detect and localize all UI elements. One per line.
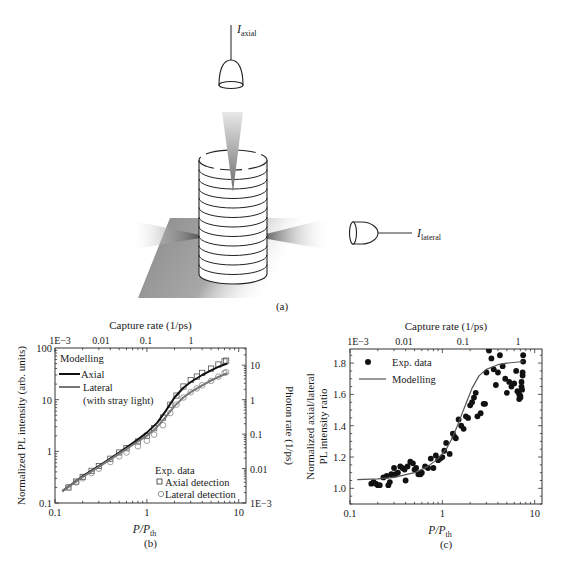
y-tick-label: 1.4: [333, 421, 347, 432]
x-tick-label: 0.1: [343, 508, 356, 519]
y2-axis-label: Photon rate (1/ps): [283, 386, 296, 465]
lateral-detector-label: Ilateral: [416, 226, 442, 242]
y-axis-label-line2: PL intensity ratio: [317, 388, 329, 464]
x-axis-label: P/Pth: [427, 524, 451, 539]
x-axis-label: P/Pth: [132, 523, 156, 538]
x-axis: 0.11101E−30.010.11Capture rate (1/ps): [343, 320, 540, 519]
chart-panel-b: 0.11101E−30.010.11Capture rate (1/ps)P/P…: [15, 319, 296, 550]
svg-text:Modelling: Modelling: [60, 353, 104, 364]
svg-text:(with stray light): (with stray light): [83, 395, 154, 407]
y2-axis: 1E−30.010.1110Photon rate (1/ps): [242, 349, 296, 509]
x-tick-label: 1: [440, 508, 445, 519]
series-exp-data: [368, 348, 526, 488]
plot-area: [357, 348, 526, 488]
top-tick-label: 0.1: [457, 336, 470, 347]
svg-text:Exp. data: Exp. data: [392, 357, 432, 368]
legend-exp-data: Exp. dataAxial detectionLateral detectio…: [155, 465, 237, 500]
y-tick-label: 1.0: [333, 483, 346, 494]
x-tick-label: 10: [233, 507, 244, 518]
top-tick-label: 1E−3: [347, 336, 369, 347]
panel-label-a: (a): [276, 300, 289, 313]
y-axis-label: Normalized axial/lateral: [304, 373, 316, 480]
axial-detector-label: Iaxial: [236, 22, 257, 38]
top-tick-label: 1: [189, 335, 194, 346]
top-tick-label: 0.1: [140, 335, 153, 346]
y2-tick-label: 0.01: [250, 464, 268, 475]
y-tick-label: 1.6: [333, 389, 346, 400]
top-axis-title: Capture rate (1/ps): [405, 320, 488, 333]
legend: Exp. dataModelling: [359, 357, 436, 385]
svg-text:Modelling: Modelling: [392, 374, 436, 385]
y-tick-label: 100: [36, 343, 52, 354]
figure: Iaxial Ilateral (a) 0.11101E−30.010.11Ca…: [0, 0, 565, 566]
svg-text:Lateral: Lateral: [83, 382, 113, 393]
y2-tick-label: 10: [250, 360, 260, 371]
top-tick-label: 1: [516, 336, 521, 347]
y2-tick-label: 0.1: [250, 429, 263, 440]
y-tick-label: 10: [42, 395, 53, 406]
chart-panel-c: 0.11101E−30.010.11Capture rate (1/ps)P/P…: [304, 320, 542, 551]
legend-modelling: ModellingAxialLateral(with stray light): [59, 353, 154, 407]
svg-text:Lateral detection: Lateral detection: [165, 489, 237, 500]
top-axis-title: Capture rate (1/ps): [109, 319, 192, 332]
svg-text:Axial: Axial: [81, 369, 104, 380]
panel-label: (c): [440, 538, 453, 551]
lateral-detector-icon: [350, 222, 413, 244]
schematic-panel-a: Iaxial Ilateral (a): [130, 22, 442, 313]
plot-frame: [350, 349, 542, 504]
y2-tick-label: 1E−3: [250, 498, 272, 509]
y-tick-label: 1.8: [333, 358, 346, 369]
y-tick-label: 1: [47, 446, 52, 457]
top-tick-label: 0.01: [395, 336, 413, 347]
svg-text:Axial detection: Axial detection: [165, 477, 230, 488]
panel-label: (b): [144, 537, 157, 550]
top-tick-label: 0.01: [92, 335, 110, 346]
y-axis-label: Normalized PL intensity (arb. units): [15, 346, 28, 505]
x-tick-label: 10: [529, 508, 540, 519]
x-tick-label: 1: [144, 507, 149, 518]
y-axis: 0.1110100Normalized PL intensity (arb. u…: [15, 343, 59, 509]
svg-text:Exp. data: Exp. data: [155, 465, 195, 476]
top-tick-label: 1E−3: [49, 335, 71, 346]
y-tick-label: 1.2: [333, 452, 346, 463]
y2-tick-label: 1: [250, 395, 255, 406]
y-tick-label: 0.1: [39, 498, 52, 509]
